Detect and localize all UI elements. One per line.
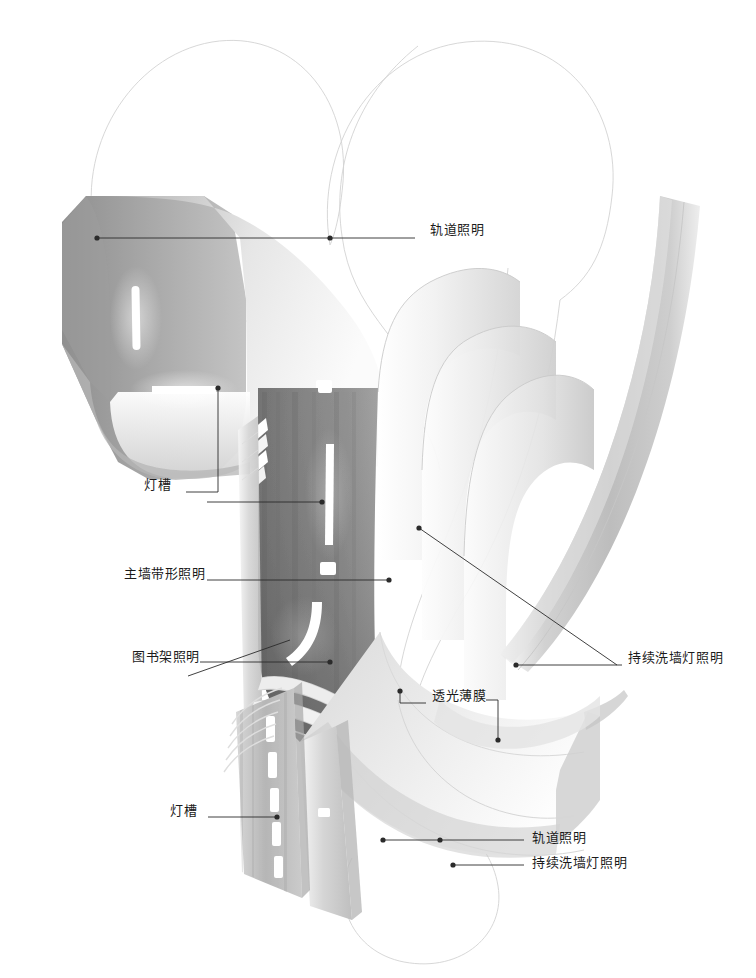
callout-dot-track-lighting-top-1	[327, 235, 332, 240]
callout-label-light-trough-upper: 灯槽	[144, 477, 171, 492]
callout-label-main-wall-linear-lighting: 主墙带形照明	[124, 566, 206, 581]
callout-dot-continuous-wall-washer-mid-1	[513, 662, 518, 667]
callout-label-bookshelf-lighting: 图书架照明	[132, 649, 200, 664]
callout-label-light-trough-lower: 灯槽	[170, 803, 197, 818]
callout-dot-main-wall-linear-lighting-1	[386, 577, 391, 582]
callout-label-track-lighting-top: 轨道照明	[430, 222, 484, 237]
callout-label-translucent-membrane: 透光薄膜	[432, 688, 486, 703]
callout-dot-continuous-wall-washer-bottom-0	[450, 862, 455, 867]
callout-label-continuous-wall-washer-bottom: 持续洗墙灯照明	[532, 855, 627, 870]
callout-dot-bookshelf-lighting-0	[327, 659, 332, 664]
callout-dot-light-trough-lower-0	[274, 814, 279, 819]
louver-slat-wall	[224, 682, 310, 908]
callout-dot-translucent-membrane-1	[495, 737, 500, 742]
callout-dot-track-lighting-bottom-0	[380, 837, 385, 842]
layered-ribbon-fins-upper	[378, 268, 594, 700]
architectural-render	[0, 0, 756, 978]
callout-dot-light-trough-upper-0	[215, 385, 220, 390]
callout-dot-track-lighting-top-0	[94, 235, 99, 240]
callout-dot-track-lighting-bottom-1	[437, 837, 442, 842]
callout-dot-continuous-wall-washer-mid-0	[416, 525, 421, 530]
callout-dot-main-wall-linear-lighting-0	[319, 499, 324, 504]
callout-label-track-lighting-bottom: 轨道照明	[532, 830, 586, 845]
callout-dot-translucent-membrane-0	[397, 688, 402, 693]
lighting-diagram-canvas: 轨道照明灯槽主墙带形照明图书架照明持续洗墙灯照明透光薄膜灯槽轨道照明持续洗墙灯照…	[0, 0, 756, 978]
callout-label-continuous-wall-washer-mid: 持续洗墙灯照明	[628, 650, 723, 665]
